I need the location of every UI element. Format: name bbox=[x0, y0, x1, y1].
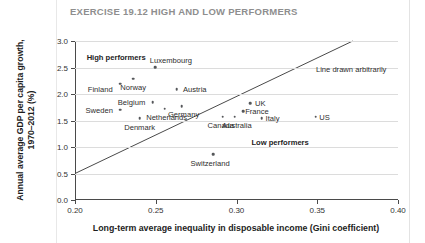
data-point-label-norway: Norway bbox=[120, 82, 146, 91]
plot-area: 0.00.51.01.52.02.53.00.200.250.300.350.4… bbox=[75, 41, 398, 200]
gridline bbox=[75, 147, 398, 148]
y-axis-tick bbox=[71, 68, 75, 69]
y-axis-tick-label: 2.0 bbox=[57, 90, 68, 99]
x-axis-tick bbox=[317, 200, 318, 204]
high-performers-annotation: High performers bbox=[87, 52, 146, 61]
data-point-luxembourg[interactable] bbox=[154, 66, 157, 69]
x-axis-label: Long-term average inequality in disposab… bbox=[93, 223, 379, 233]
y-axis-label: Annual average GDP per capita growth, 19… bbox=[15, 39, 37, 200]
y-axis-tick-label: 1.5 bbox=[57, 116, 68, 125]
data-point-austria[interactable] bbox=[175, 88, 178, 91]
data-point-norway[interactable] bbox=[132, 77, 135, 80]
data-point-label-netherlands: Netherlands bbox=[146, 112, 187, 121]
data-point-label-italy: Italy bbox=[266, 114, 280, 123]
low-performers-annotation: Low performers bbox=[251, 138, 308, 147]
y-axis-tick bbox=[71, 94, 75, 95]
y-axis-tick-label: 0.0 bbox=[57, 196, 68, 205]
x-axis-tick bbox=[156, 200, 157, 204]
y-axis-tick bbox=[71, 121, 75, 122]
chart-page: EXERCISE 19.12 HIGH AND LOW PERFORMERS A… bbox=[0, 0, 425, 243]
data-point-france[interactable] bbox=[242, 110, 245, 113]
data-point-canada[interactable] bbox=[221, 115, 224, 118]
data-point-italy[interactable] bbox=[260, 117, 263, 120]
y-axis-tick bbox=[71, 41, 75, 42]
x-axis-tick bbox=[237, 200, 238, 204]
page-title: EXERCISE 19.12 HIGH AND LOW PERFORMERS bbox=[70, 6, 298, 17]
line-note-annotation: Line drawn arbitrarily bbox=[316, 65, 386, 74]
y-axis-tick bbox=[71, 174, 75, 175]
data-point-finland[interactable] bbox=[119, 82, 122, 85]
x-axis-tick bbox=[75, 200, 76, 204]
data-point-uk[interactable] bbox=[249, 102, 252, 105]
y-axis-tick-label: 0.5 bbox=[57, 169, 68, 178]
data-point-belgium[interactable] bbox=[151, 101, 154, 104]
x-axis-tick-label: 0.35 bbox=[309, 206, 325, 215]
y-axis-tick-label: 3.0 bbox=[57, 37, 68, 46]
y-axis-tick-label: 1.0 bbox=[57, 143, 68, 152]
data-point-label-finland: Finland bbox=[88, 84, 113, 93]
data-point-label-denmark: Denmark bbox=[124, 123, 155, 132]
data-point-sweden[interactable] bbox=[119, 108, 122, 111]
data-point-label-belgium: Belgium bbox=[118, 97, 145, 106]
data-point-label-luxembourg: Luxembourg bbox=[150, 56, 192, 65]
x-axis-tick-label: 0.20 bbox=[67, 206, 83, 215]
data-point-australia[interactable] bbox=[234, 115, 237, 118]
data-point-us[interactable] bbox=[314, 115, 317, 118]
data-point-label-switzerland: Switzerland bbox=[190, 159, 229, 168]
x-axis-tick-label: 0.30 bbox=[229, 206, 245, 215]
data-point-germany[interactable] bbox=[180, 105, 183, 108]
data-point-denmark[interactable] bbox=[138, 117, 141, 120]
y-axis-tick bbox=[71, 147, 75, 148]
gridline bbox=[75, 94, 398, 95]
data-point-switzerland[interactable] bbox=[212, 153, 215, 156]
data-point-label-austria: Austria bbox=[183, 84, 207, 93]
y-axis-label-line1: Annual average GDP per capita growth, bbox=[15, 39, 25, 200]
y-axis-label-line2: 1970–2012 (%) bbox=[26, 91, 36, 150]
y-axis-tick-label: 2.5 bbox=[57, 63, 68, 72]
gridline bbox=[75, 41, 398, 42]
x-axis-tick-label: 0.40 bbox=[390, 206, 406, 215]
x-axis-tick-label: 0.25 bbox=[148, 206, 164, 215]
data-point-label-australia: Australia bbox=[222, 120, 252, 129]
data-point-label-sweden: Sweden bbox=[85, 105, 112, 114]
data-point-label-us: US bbox=[319, 112, 330, 121]
x-axis-tick bbox=[398, 200, 399, 204]
data-point-netherlands[interactable] bbox=[163, 108, 166, 111]
gridline bbox=[75, 174, 398, 175]
